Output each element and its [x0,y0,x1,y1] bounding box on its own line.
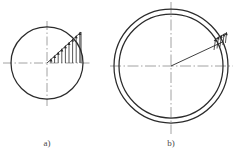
figure-container: a) [0,0,235,158]
concentrated-arrow-cluster-b [214,32,228,50]
load-arrow [75,35,78,63]
load-arrow [64,45,67,63]
triangular-arrow-distribution-a [50,32,82,63]
load-arrow [53,55,56,63]
subfigure-b: b) [110,2,233,148]
caption-a: a) [44,138,51,148]
load-arrow [68,42,71,63]
technical-diagram: a) [0,0,235,158]
load-arrow [214,38,217,50]
caption-b: b) [167,138,175,148]
load-arrow [71,38,74,63]
subfigure-a: a) [3,21,92,148]
